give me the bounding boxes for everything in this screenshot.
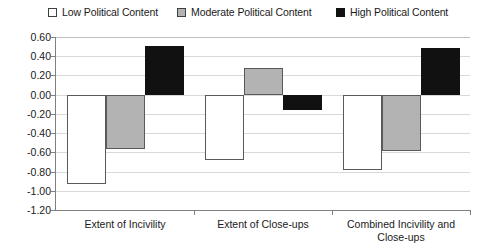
bar	[382, 95, 421, 152]
bar-chart: Low Political Content Moderate Political…	[0, 0, 489, 251]
legend-item-low: Low Political Content	[48, 7, 158, 18]
legend-item-high: High Political Content	[336, 7, 448, 18]
chart-legend: Low Political Content Moderate Political…	[0, 4, 489, 24]
plot-area	[56, 37, 470, 210]
gridline	[56, 56, 470, 57]
bar	[283, 95, 322, 110]
bar	[421, 48, 460, 95]
gridline	[56, 172, 470, 173]
bar	[205, 95, 244, 160]
y-axis-tick-label: -0.40	[5, 128, 51, 139]
high-swatch-icon	[336, 8, 345, 17]
category-separator	[332, 210, 333, 215]
y-axis-tick-label: 0.00	[5, 89, 51, 100]
y-axis-tick-label: -1.00	[5, 186, 51, 197]
category-separator	[194, 210, 195, 215]
bar	[106, 95, 145, 150]
moderate-swatch-icon	[177, 8, 186, 17]
legend-label-high: High Political Content	[350, 7, 448, 18]
bar	[67, 95, 106, 184]
gridline	[56, 152, 470, 153]
x-axis-category-label: Extent of Close-ups	[194, 218, 332, 231]
gridline	[56, 37, 470, 38]
x-axis-category-label: Combined Incivility andClose-ups	[332, 218, 470, 244]
y-axis-tick-label: -1.20	[5, 205, 51, 216]
x-axis-category-label: Extent of Incivility	[56, 218, 194, 231]
y-axis-tick-label: 0.60	[5, 32, 51, 43]
legend-label-moderate: Moderate Political Content	[191, 7, 312, 18]
bar	[145, 46, 184, 95]
y-axis: 0.600.400.200.00-0.20-0.40-0.60-0.80-1.0…	[0, 0, 51, 251]
bar	[244, 68, 283, 95]
x-axis-category-label-line: Extent of Close-ups	[194, 218, 332, 231]
y-axis-line	[55, 37, 56, 211]
legend-item-moderate: Moderate Political Content	[177, 7, 312, 18]
x-axis-category-label-line: Combined Incivility and	[332, 218, 470, 231]
bar	[343, 95, 382, 170]
y-axis-tick-label: -0.20	[5, 109, 51, 120]
y-axis-tick-label: -0.80	[5, 166, 51, 177]
y-axis-tick-label: -0.60	[5, 147, 51, 158]
x-axis-line	[56, 210, 470, 211]
gridline	[56, 191, 470, 192]
y-axis-tick-label: 0.40	[5, 51, 51, 62]
y-axis-tick-label: 0.20	[5, 70, 51, 81]
legend-label-low: Low Political Content	[62, 7, 158, 18]
category-separator	[470, 210, 471, 215]
x-axis-category-label-line: Close-ups	[332, 231, 470, 244]
x-axis-category-label-line: Extent of Incivility	[56, 218, 194, 231]
